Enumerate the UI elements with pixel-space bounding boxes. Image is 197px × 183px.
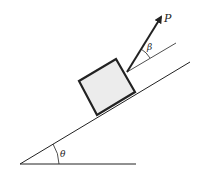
theta-arc xyxy=(53,144,59,164)
force-label: P xyxy=(163,12,172,25)
force-arrow xyxy=(127,17,161,72)
theta-label: θ xyxy=(60,149,66,159)
incline-diagram: θ β P xyxy=(0,0,197,183)
block xyxy=(79,59,135,115)
beta-label: β xyxy=(146,42,152,52)
